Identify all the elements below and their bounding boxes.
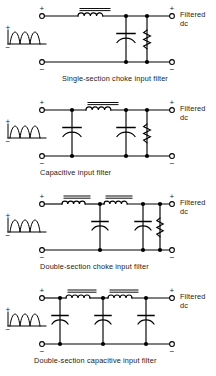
input-plus-sign: +: [40, 98, 45, 107]
junction-dot: [58, 296, 62, 300]
series-choke-1: [86, 103, 118, 111]
output-label: Filtered dc: [180, 105, 205, 122]
input-waveform: [8, 312, 46, 326]
waveform-plus-sign: +: [6, 117, 11, 126]
output-plus-sign: +: [170, 98, 175, 107]
junction-dot: [101, 296, 105, 300]
schematic-sheet: + + + − − − Filtered dc Single-section c…: [0, 0, 216, 376]
output-minus-sign: −: [170, 65, 175, 74]
junction-dot: [145, 108, 149, 112]
output-minus-terminal: [170, 154, 175, 159]
output-plus-sign: +: [170, 286, 175, 295]
input-plus-sign: +: [40, 4, 45, 13]
series-choke-2: [104, 196, 132, 204]
circuit-capacitive-input-filter: + + + − − − Filtered dc Capacitive input…: [0, 94, 216, 188]
input-plus-terminal: [40, 14, 45, 19]
caption-circuit-4: Double-section capacitive input filter: [0, 356, 216, 365]
junction-dot: [144, 296, 148, 300]
input-plus-sign: +: [40, 286, 45, 295]
output-plus-sign: +: [170, 4, 175, 13]
junction-dot: [145, 14, 149, 18]
junction-dot: [144, 342, 148, 346]
input-plus-terminal: [40, 296, 45, 301]
junction-dot: [70, 108, 74, 112]
input-minus-sign: −: [40, 159, 45, 168]
waveform-minus-sign: −: [5, 137, 10, 146]
output-minus-sign: −: [170, 253, 175, 262]
input-minus-terminal: [40, 248, 45, 253]
input-minus-terminal: [40, 154, 45, 159]
output-minus-sign: −: [170, 159, 175, 168]
input-minus-terminal: [40, 342, 45, 347]
junction-dot: [124, 108, 128, 112]
input-waveform: [8, 218, 46, 232]
input-waveform: [8, 124, 46, 138]
waveform-minus-sign: −: [5, 231, 10, 240]
input-minus-sign: −: [40, 65, 45, 74]
output-label-line2: dc: [180, 114, 205, 123]
series-choke-2: [108, 290, 138, 298]
junction-dot: [158, 248, 162, 252]
junction-dot: [158, 202, 162, 206]
circuit-single-section-choke-input-filter: + + + − − − Filtered dc Single-section c…: [0, 0, 216, 94]
junction-dot: [124, 14, 128, 18]
series-choke-1: [78, 9, 110, 17]
waveform-minus-sign: −: [5, 43, 10, 52]
output-label-line2: dc: [180, 20, 205, 29]
junction-dot: [145, 60, 149, 64]
output-plus-terminal: [170, 296, 175, 301]
series-choke-1: [62, 196, 90, 204]
junction-dot: [58, 342, 62, 346]
waveform-plus-sign: +: [6, 23, 11, 32]
junction-dot: [98, 248, 102, 252]
output-plus-terminal: [170, 202, 175, 207]
output-minus-terminal: [170, 248, 175, 253]
output-minus-terminal: [170, 342, 175, 347]
waveform-plus-sign: +: [6, 211, 11, 220]
circuit-double-section-capacitive-input-filter: + + + − − − Filtered dc Double-section c…: [0, 282, 216, 376]
output-label: Filtered dc: [180, 11, 205, 28]
input-plus-sign: +: [40, 192, 45, 201]
input-minus-sign: −: [40, 253, 45, 262]
junction-dot: [141, 202, 145, 206]
caption-circuit-1: Single-section choke input filter: [0, 74, 216, 83]
junction-dot: [124, 60, 128, 64]
input-minus-sign: −: [40, 347, 45, 356]
junction-dot: [124, 154, 128, 158]
junction-dot: [70, 154, 74, 158]
waveform-plus-sign: +: [6, 305, 11, 314]
circuit-double-section-choke-input-filter: + + + − − − Filtered dc Double-section c…: [0, 188, 216, 282]
output-label: Filtered dc: [180, 293, 205, 310]
output-plus-terminal: [170, 14, 175, 19]
caption-circuit-3: Double-section choke input filter: [0, 262, 216, 271]
input-plus-terminal: [40, 202, 45, 207]
output-label-line2: dc: [180, 302, 205, 311]
output-plus-sign: +: [170, 192, 175, 201]
junction-dot: [98, 202, 102, 206]
input-minus-terminal: [40, 60, 45, 65]
series-choke-1: [66, 290, 96, 298]
junction-dot: [145, 154, 149, 158]
waveform-minus-sign: −: [5, 325, 10, 334]
caption-circuit-2: Capacitive input filter: [0, 168, 216, 177]
junction-dot: [141, 248, 145, 252]
input-waveform: [8, 30, 46, 44]
junction-dot: [101, 342, 105, 346]
output-label-line2: dc: [180, 208, 205, 217]
output-minus-terminal: [170, 60, 175, 65]
output-minus-sign: −: [170, 347, 175, 356]
output-plus-terminal: [170, 108, 175, 113]
input-plus-terminal: [40, 108, 45, 113]
output-label: Filtered dc: [180, 199, 205, 216]
